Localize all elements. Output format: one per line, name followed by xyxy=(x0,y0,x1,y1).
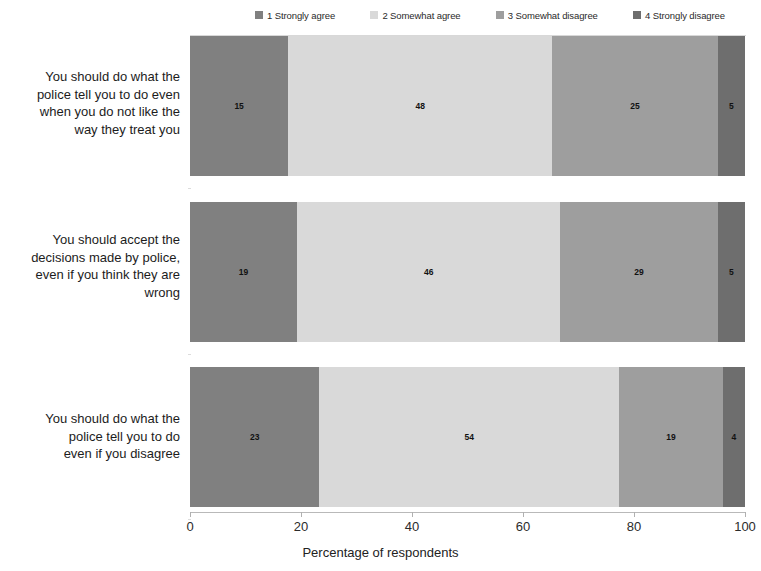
bar-segment[interactable]: 5 xyxy=(718,36,745,176)
bar-segment[interactable]: 19 xyxy=(619,367,723,507)
category-label-line: You should do what the xyxy=(8,410,180,428)
legend-item[interactable]: 2 Somewhat agree xyxy=(370,10,460,21)
category-label: You should accept thedecisions made by p… xyxy=(8,231,180,301)
legend-item-label: 1 Strongly agree xyxy=(267,10,335,21)
bar-segment[interactable]: 5 xyxy=(718,202,745,342)
legend-item[interactable]: 3 Somewhat disagree xyxy=(496,10,598,21)
x-axis-line xyxy=(190,512,746,513)
legend-swatch-icon xyxy=(633,11,641,19)
x-axis-tick-mark xyxy=(634,512,635,517)
x-axis-label: Percentage of respondents xyxy=(0,545,761,560)
x-axis-tick-label: 80 xyxy=(627,519,641,534)
stacked-bar: 1548255 xyxy=(190,36,745,176)
stacked-bar: 2354194 xyxy=(190,367,745,507)
bar-segment-value: 48 xyxy=(416,102,425,111)
x-axis-tick-label: 100 xyxy=(734,519,756,534)
legend-swatch-icon xyxy=(496,11,504,19)
bar-row: 2354194 xyxy=(190,367,745,507)
x-axis-tick-mark xyxy=(190,512,191,517)
chart-legend: 1 Strongly agree2 Somewhat agree3 Somewh… xyxy=(255,7,725,23)
bar-segment[interactable]: 23 xyxy=(190,367,319,507)
x-axis-tick-mark xyxy=(523,512,524,517)
bar-segment-value: 46 xyxy=(424,268,433,277)
bar-segment[interactable]: 46 xyxy=(297,202,560,342)
bar-segment-value: 5 xyxy=(729,268,734,277)
x-axis-tick-mark xyxy=(745,512,746,517)
category-label: You should do what thepolice tell you to… xyxy=(8,410,180,463)
stacked-bar: 1946295 xyxy=(190,202,745,342)
legend-item-label: 2 Somewhat agree xyxy=(382,10,460,21)
x-axis-tick-label: 20 xyxy=(294,519,308,534)
stacked-bar-chart: 1 Strongly agree2 Somewhat agree3 Somewh… xyxy=(0,0,761,571)
legend-swatch-icon xyxy=(370,11,378,19)
y-axis-tick-mark xyxy=(188,519,191,520)
category-label-line: police tell you to do even xyxy=(8,86,180,104)
bar-segment-value: 23 xyxy=(250,433,259,442)
x-axis-tick-mark xyxy=(301,512,302,517)
bar-segment-value: 5 xyxy=(729,102,734,111)
bar-segment[interactable]: 19 xyxy=(190,202,297,342)
legend-swatch-icon xyxy=(255,11,263,19)
category-label-line: even if you disagree xyxy=(8,445,180,463)
category-label: You should do what thepolice tell you to… xyxy=(8,68,180,138)
y-axis-tick-mark xyxy=(188,188,191,189)
legend-item-label: 3 Somewhat disagree xyxy=(508,10,598,21)
bar-segment-value: 15 xyxy=(234,102,243,111)
bar-segment-value: 54 xyxy=(464,433,473,442)
bar-row: 1946295 xyxy=(190,202,745,342)
category-label-line: even if you think they are xyxy=(8,266,180,284)
bar-segment[interactable]: 29 xyxy=(560,202,718,342)
bar-segment-value: 19 xyxy=(666,433,675,442)
category-label-line: when you do not like the xyxy=(8,103,180,121)
category-label-line: way they treat you xyxy=(8,121,180,139)
category-label-line: police tell you to do xyxy=(8,428,180,446)
x-axis-tick-label: 40 xyxy=(405,519,419,534)
bar-segment-value: 25 xyxy=(630,102,639,111)
category-label-line: wrong xyxy=(8,284,180,302)
bar-segment[interactable]: 54 xyxy=(319,367,619,507)
legend-item[interactable]: 4 Strongly disagree xyxy=(633,10,725,21)
bar-segment[interactable]: 48 xyxy=(288,36,552,176)
x-axis-tick-mark xyxy=(412,512,413,517)
category-label-line: decisions made by police, xyxy=(8,249,180,267)
bar-segment[interactable]: 15 xyxy=(190,36,288,176)
x-axis-tick-label: 0 xyxy=(186,519,193,534)
bar-segment[interactable]: 4 xyxy=(723,367,745,507)
bar-segment[interactable]: 25 xyxy=(552,36,717,176)
bar-row: 1548255 xyxy=(190,36,745,176)
category-label-line: You should accept the xyxy=(8,231,180,249)
category-label-line: You should do what the xyxy=(8,68,180,86)
bar-segment-value: 19 xyxy=(239,268,248,277)
x-axis-tick-label: 60 xyxy=(516,519,530,534)
legend-item-label: 4 Strongly disagree xyxy=(645,10,725,21)
legend-item[interactable]: 1 Strongly agree xyxy=(255,10,335,21)
y-axis-tick-mark xyxy=(188,354,191,355)
bar-segment-value: 4 xyxy=(732,433,737,442)
bar-segment-value: 29 xyxy=(634,268,643,277)
